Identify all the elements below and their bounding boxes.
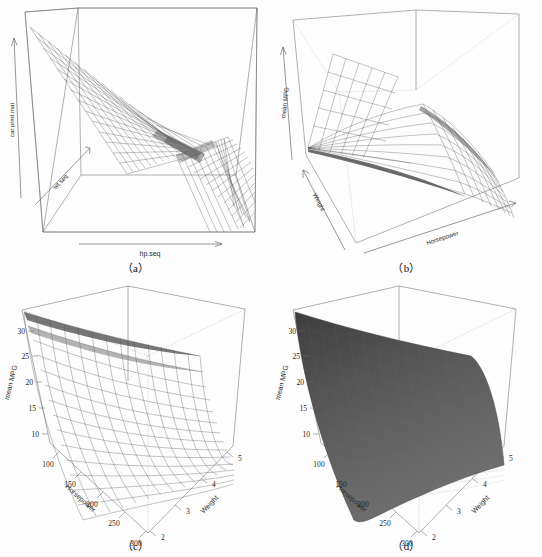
panel-c-z-tick-10: 10 [31,430,39,439]
panel-d-y-label: Weight [470,494,491,515]
panel-b-z-axis: mean MPG [279,47,292,160]
panel-a-plot: car.pred.mat wt.seq hp.seq [0,0,271,278]
panel-c-x-tick-100: 100 [42,460,54,469]
panel-d: 30 25 20 15 10 mean MPG 100 150 200 250 … [271,278,542,556]
panel-d-z-tick-25: 25 [292,352,300,361]
panel-b-x-axis: Horsepower [364,201,516,253]
panel-c-x-tick-250: 250 [108,519,120,528]
panel-b-caption: （b） [271,259,542,275]
panel-c: 30 25 20 15 10 mean MPG 100 150 200 250 … [0,278,271,556]
panel-c-y-label: Weight [199,494,220,515]
panel-a-y-label: wt.seq [51,172,70,191]
panel-a-caption: （a） [0,259,271,275]
panel-a-y-axis: wt.seq [35,147,90,205]
panel-d-z-label: mean MPG [274,364,289,400]
panel-b-y-label: Weight [312,192,327,212]
panel-b-surface-shading [308,106,495,197]
panel-c-surface-shading [24,312,203,372]
panel-c-x-label: Horsepower [64,483,98,515]
panel-b-x-label: Horsepower [425,229,459,246]
panel-c-z-axis: 30 25 20 15 10 mean MPG [3,327,48,439]
panel-b: mean MPG Weight Horsepower （b） [271,0,542,278]
panel-b-plot: mean MPG Weight Horsepower [271,0,542,278]
panel-d-z-tick-10: 10 [302,430,310,439]
panel-d-z-tick-30: 30 [288,327,296,336]
panel-d-x-tick-100: 100 [313,460,325,469]
panel-c-y-tick-3: 3 [186,507,190,516]
panel-c-y-tick-5: 5 [238,454,242,463]
panel-c-z-tick-15: 15 [28,404,36,413]
panel-d-y-tick-3: 3 [457,507,461,516]
panel-d-z-tick-20: 20 [296,378,304,387]
panel-d-z-tick-15: 15 [299,404,307,413]
panel-c-caption: （c） [0,537,271,553]
panel-a-frame [25,8,257,232]
panel-a-z-label: car.pred.mat [8,103,15,138]
panel-d-y-tick-5: 5 [509,454,513,463]
panel-d-caption: （d） [271,537,542,553]
panel-c-y-tick-4: 4 [212,480,216,489]
figure-canvas: car.pred.mat wt.seq hp.seq （a） [0,0,542,557]
panel-d-x-tick-250: 250 [379,519,391,528]
panel-c-z-tick-25: 25 [21,352,29,361]
panel-a: car.pred.mat wt.seq hp.seq （a） [0,0,271,278]
panel-c-z-tick-20: 20 [25,378,33,387]
panel-c-plot: 30 25 20 15 10 mean MPG 100 150 200 250 … [0,278,271,556]
panel-a-x-axis: hp.seq [79,242,222,259]
panel-d-surface-shaded [295,312,505,522]
panel-d-y-tick-4: 4 [483,480,487,489]
panel-c-z-label: mean MPG [3,364,18,400]
panel-b-surface-mesh [308,54,514,218]
panel-d-plot: 30 25 20 15 10 mean MPG 100 150 200 250 … [271,278,542,556]
panel-b-y-axis: Weight [303,170,345,250]
panel-c-x-axis: 100 150 200 250 300 Horsepower [42,452,146,548]
panel-c-z-tick-30: 30 [17,327,25,336]
panel-c-y-axis: 5 4 3 2 Weight [150,452,242,542]
panel-a-z-axis: car.pred.mat [8,38,21,198]
panel-a-x-label: hp.seq [139,250,160,258]
